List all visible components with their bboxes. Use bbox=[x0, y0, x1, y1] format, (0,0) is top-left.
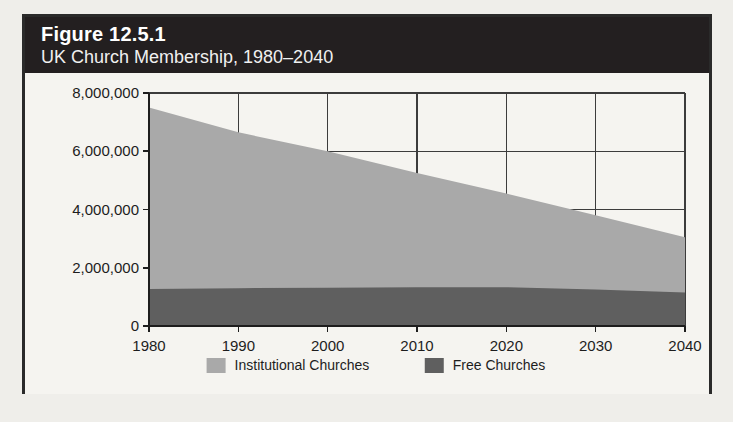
legend-label: Free Churches bbox=[453, 357, 546, 373]
chart-legend: Institutional ChurchesFree Churches bbox=[207, 357, 546, 373]
y-tick-label: 8,000,000 bbox=[72, 84, 139, 101]
y-tick-label: 6,000,000 bbox=[72, 142, 139, 159]
x-tick-label: 2040 bbox=[668, 337, 701, 354]
stacked-area-chart: 02,000,0004,000,0006,000,0008,000,000 19… bbox=[25, 73, 709, 394]
y-tick-label: 2,000,000 bbox=[72, 259, 139, 276]
x-tick-label: 2030 bbox=[579, 337, 612, 354]
y-tick-label: 0 bbox=[131, 317, 139, 334]
x-tick-label: 2020 bbox=[490, 337, 523, 354]
legend-swatch bbox=[425, 358, 444, 373]
x-axis-ticks: 1980199020002010202020302040 bbox=[132, 326, 701, 354]
y-axis-ticks: 02,000,0004,000,0006,000,0008,000,000 bbox=[72, 84, 149, 334]
legend-swatch bbox=[207, 358, 226, 373]
figure-header: Figure 12.5.1 UK Church Membership, 1980… bbox=[25, 17, 709, 73]
chart-area: 02,000,0004,000,0006,000,0008,000,000 19… bbox=[25, 73, 709, 394]
figure-subtitle: UK Church Membership, 1980–2040 bbox=[41, 46, 709, 68]
x-tick-label: 1980 bbox=[132, 337, 165, 354]
x-tick-label: 2000 bbox=[311, 337, 344, 354]
x-tick-label: 1990 bbox=[222, 337, 255, 354]
figure-number: Figure 12.5.1 bbox=[41, 22, 709, 46]
figure-panel: Figure 12.5.1 UK Church Membership, 1980… bbox=[22, 14, 712, 394]
x-tick-label: 2010 bbox=[400, 337, 433, 354]
legend-label: Institutional Churches bbox=[235, 357, 370, 373]
y-tick-label: 4,000,000 bbox=[72, 201, 139, 218]
